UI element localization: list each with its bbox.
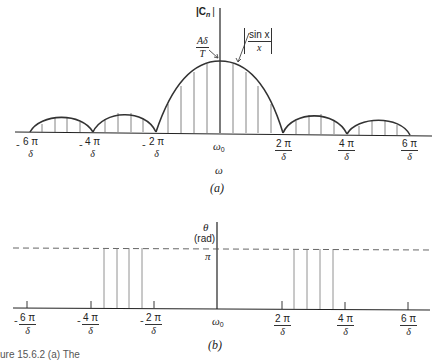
minus-sign: - [140,315,144,328]
b-x-axis [13,308,430,310]
a-tick-neg6pi: 6 πδ [22,137,39,159]
a-tick-4pi: 4 πδ [338,139,355,162]
b-phase-lines [104,248,333,309]
figure-caption-fragment: ure 15.6.2 (a) The [0,350,80,360]
minus-sign: - [77,315,81,328]
a-tick-omega0: ω0 [213,141,225,153]
b-tick-4pi: 4 πδ [337,314,354,337]
panel-a [15,8,432,136]
a-tick-neg4pi: 4 πδ [84,137,101,159]
sinx-abs-right [271,28,274,54]
a-annotation-arrows [209,33,249,62]
b-tick-2pi: 2 πδ [274,314,291,337]
a-tick-2pi: 2 πδ [275,139,292,162]
a-tick-neg2pi: 2 πδ [148,137,165,159]
a-tick-6pi: 6 πδ [401,139,418,162]
panel-a-label: (a) [210,182,224,194]
a-xlabel-omega: ω [215,165,223,176]
minus-sign: - [14,315,18,328]
sinx-abs-left [244,28,247,54]
b-ytick-pi: π [205,251,211,262]
peak-label: Aδ T [196,36,209,59]
b-tick-omega0: ω0 [212,316,224,328]
a-x-axis [15,132,432,136]
b-tick-neg4pi: 4 πδ [82,313,99,336]
sinx-label: sin x x [248,30,271,53]
minus-sign: - [16,139,20,152]
b-tick-neg6pi: 6 πδ [19,313,36,336]
b-tick-6pi: 6 πδ [400,314,417,337]
b-ylabel-rad: (rad) [194,234,215,244]
panel-b-label: (b) [208,339,222,351]
a-ylabel: |Cn| [196,7,215,18]
minus-sign: - [142,139,146,152]
b-tick-neg2pi: 2 πδ [145,313,162,336]
panel-b [13,222,430,310]
b-pi-reference-dashed [13,248,430,250]
minus-sign: - [79,139,83,152]
b-ylabel-theta: θ [203,222,208,233]
